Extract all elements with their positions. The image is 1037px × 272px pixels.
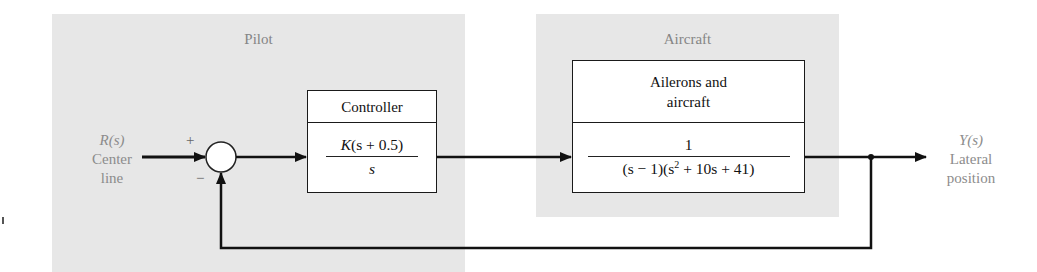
- controller-numerator: K(s + 0.5): [341, 135, 404, 155]
- input-label: R(s) Center line: [82, 131, 142, 188]
- plant-block: Ailerons and aircraft 1 (s − 1)(s2 + 10s…: [572, 60, 805, 193]
- input-symbol: R(s): [82, 131, 142, 150]
- minus-sign: −: [196, 171, 204, 186]
- output-label: Y(s) Lateral position: [931, 131, 1011, 188]
- plant-title: Ailerons and aircraft: [573, 61, 804, 123]
- controller-transfer-function: K(s + 0.5) s: [308, 122, 436, 192]
- input-desc-line2: line: [82, 169, 142, 188]
- input-desc-line1: Center: [82, 150, 142, 169]
- plant-numerator: 1: [685, 135, 693, 155]
- aircraft-region-label: Aircraft: [536, 31, 839, 48]
- plus-sign: +: [186, 133, 194, 148]
- plant-fraction-bar: [588, 156, 790, 157]
- controller-title: Controller: [308, 91, 436, 123]
- output-desc-line1: Lateral: [931, 150, 1011, 169]
- pickoff-point: [868, 154, 874, 160]
- controller-fraction-bar: [326, 156, 418, 157]
- plant-denominator: (s − 1)(s2 + 10s + 41): [623, 159, 755, 179]
- scan-artifact-mark: [2, 217, 4, 224]
- pilot-region-label: Pilot: [52, 31, 465, 48]
- controller-denominator: s: [369, 159, 375, 179]
- output-symbol: Y(s): [931, 131, 1011, 150]
- plant-transfer-function: 1 (s − 1)(s2 + 10s + 41): [573, 122, 804, 192]
- controller-block: Controller K(s + 0.5) s: [307, 90, 437, 193]
- output-desc-line2: position: [931, 169, 1011, 188]
